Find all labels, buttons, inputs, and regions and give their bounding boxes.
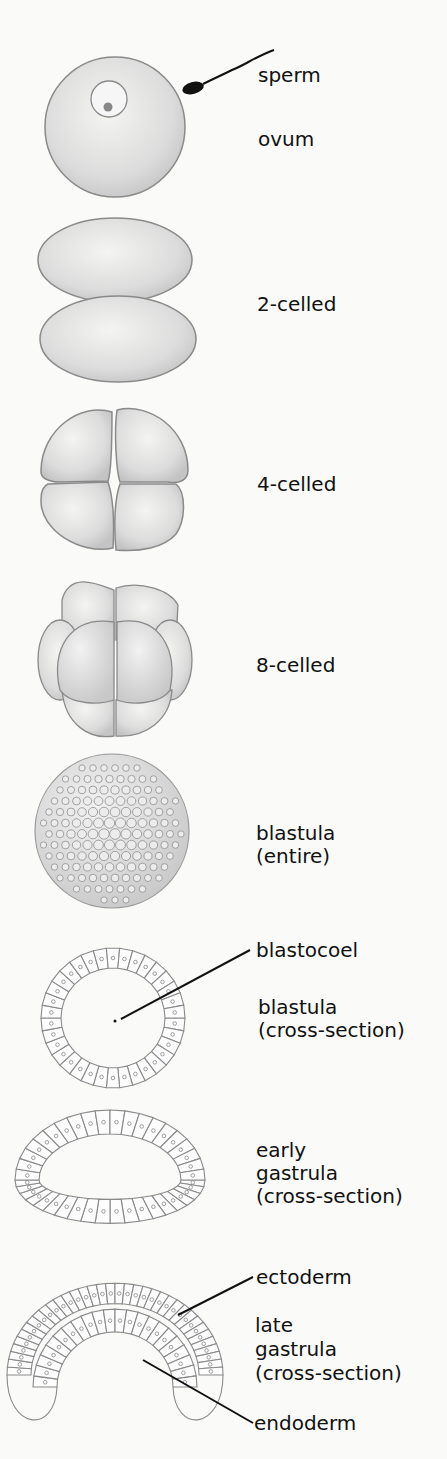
label-eight-celled: 8-celled	[256, 654, 335, 676]
label-early-gastrula-cs: (cross-section)	[256, 1185, 403, 1207]
label-blastocoel: blastocoel	[256, 939, 358, 961]
blastula-entire-drawing	[35, 754, 189, 908]
label-late: late	[255, 1314, 293, 1336]
late-gastrula-drawing	[7, 1283, 223, 1420]
label-late-gastrula-cs: (cross-section)	[255, 1362, 402, 1384]
label-early: early	[256, 1139, 306, 1161]
label-late-gastrula: gastrula	[255, 1338, 337, 1360]
two-celled-drawing	[38, 218, 196, 382]
early-gastrula-drawing	[15, 1110, 205, 1223]
label-blastula-cs: blastula	[258, 996, 337, 1018]
label-early-gastrula: gastrula	[256, 1162, 338, 1184]
label-sperm: sperm	[258, 64, 321, 86]
eight-celled-drawing	[38, 582, 192, 737]
four-celled-drawing	[41, 409, 188, 551]
endoderm-pointer	[143, 1360, 253, 1423]
label-four-celled: 4-celled	[257, 473, 336, 495]
ovum-drawing	[45, 57, 185, 197]
embryo-diagram	[0, 0, 447, 1459]
label-blastula: blastula	[256, 822, 335, 844]
label-ectoderm: ectoderm	[256, 1266, 352, 1288]
ectoderm-pointer	[178, 1277, 253, 1315]
label-ovum: ovum	[258, 128, 314, 150]
label-two-celled: 2-celled	[257, 293, 336, 315]
label-blastula-cs-2: (cross-section)	[258, 1019, 405, 1041]
label-endoderm: endoderm	[254, 1412, 356, 1434]
label-blastula-entire: (entire)	[256, 845, 330, 867]
blastula-cross-section-drawing	[41, 948, 185, 1087]
